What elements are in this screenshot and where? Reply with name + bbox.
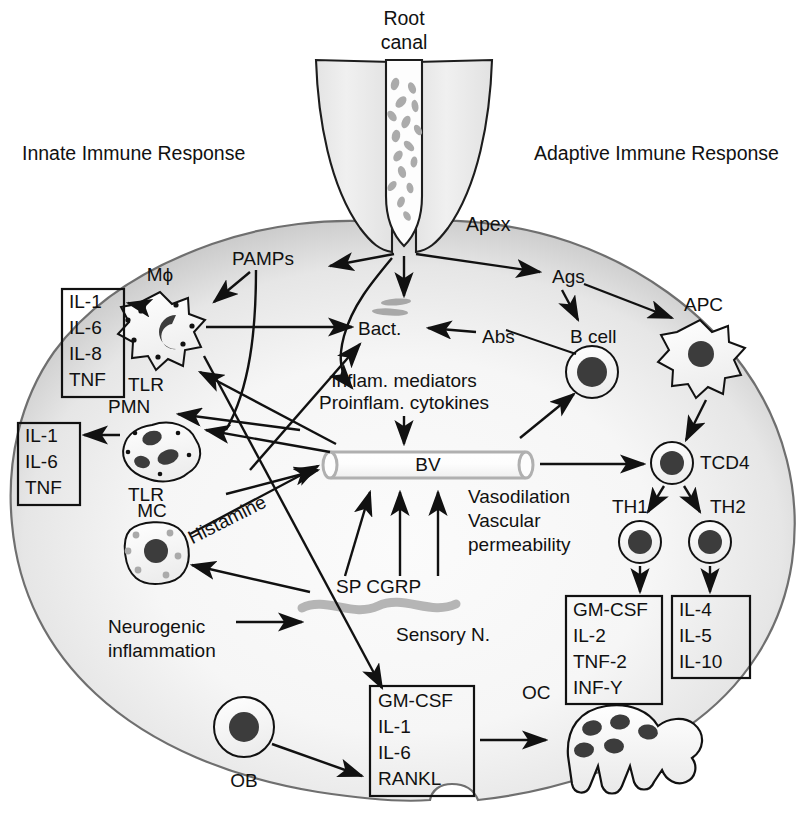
pmn-cell xyxy=(123,423,200,482)
periapical-immune-diagram: Root canal Apex Innate Immune Response A… xyxy=(0,0,809,828)
adaptive-immune-response-header: Adaptive Immune Response xyxy=(534,142,779,164)
sensory-nerve-label: Sensory N. xyxy=(396,624,490,645)
pmn-cytokine-0: IL-1 xyxy=(25,425,58,446)
antigens-label: Ags xyxy=(552,266,585,287)
pmn-cytokine-2: TNF xyxy=(25,477,62,498)
proinflam-cytokines-label: Proinflam. cytokines xyxy=(319,392,489,413)
osteo-factor-2: IL-6 xyxy=(378,742,411,763)
b-cell-label: B cell xyxy=(570,326,616,347)
antibodies-label: Abs xyxy=(482,326,515,347)
permeability-label: permeability xyxy=(468,534,571,555)
apc-nucleus xyxy=(688,341,714,367)
osteoclast-label: OC xyxy=(522,682,551,703)
osteoblast-nucleus xyxy=(229,712,259,742)
th2-label: TH2 xyxy=(710,496,746,517)
th1-cytokine-3: INF-Y xyxy=(573,677,623,698)
mast-cell-label: MC xyxy=(137,500,167,521)
mast-cell xyxy=(125,522,189,584)
osteoclast-cell xyxy=(568,705,702,793)
blood-vessel: BV xyxy=(323,452,533,478)
tlr-macrophage-label: TLR xyxy=(128,374,164,395)
macrophage-cytokine-3: TNF xyxy=(69,369,106,390)
th1-nucleus xyxy=(628,530,652,554)
pmn-cytokine-1: IL-6 xyxy=(25,451,58,472)
vascular-label: Vascular xyxy=(468,510,541,531)
inflam-mediators-label: Inflam. mediators xyxy=(331,370,477,391)
osteo-factor-1: IL-1 xyxy=(378,716,411,737)
macrophage-label: Mϕ xyxy=(147,264,173,285)
th2-nucleus xyxy=(698,530,722,554)
neurogenic-label-line1: Neurogenic xyxy=(108,616,205,637)
th2-cell xyxy=(689,521,731,563)
macrophage-cytokine-2: IL-8 xyxy=(69,343,102,364)
vasodilation-label: Vasodilation xyxy=(468,486,570,507)
neurogenic-label-line2: inflammation xyxy=(108,640,216,661)
figure-canvas: Root canal Apex Innate Immune Response A… xyxy=(0,0,809,828)
tcd4-cell xyxy=(651,442,693,484)
osteoblast-cell xyxy=(214,697,274,757)
tcd4-label: TCD4 xyxy=(700,452,750,473)
sp-cgrp-label: SP CGRP xyxy=(336,576,421,597)
th1-label: TH1 xyxy=(612,496,648,517)
th1-cytokine-1: IL-2 xyxy=(573,625,606,646)
bv-left-cap xyxy=(323,452,337,478)
sensory-nerve-fiber xyxy=(302,602,456,609)
th2-cytokine-0: IL-4 xyxy=(679,599,712,620)
pmn-label: PMN xyxy=(108,396,150,417)
osteo-factor-3: RANKL xyxy=(378,768,441,789)
mast-cell-nucleus xyxy=(144,539,168,563)
osteoblast-label: OB xyxy=(230,770,257,791)
tcd4-nucleus xyxy=(660,451,684,475)
th1-cytokine-0: GM-CSF xyxy=(573,599,648,620)
bacteria-label: Bact. xyxy=(358,318,401,339)
macrophage-cytokine-0: IL-1 xyxy=(69,291,102,312)
innate-immune-response-header: Innate Immune Response xyxy=(22,142,245,164)
bv-right-cap xyxy=(519,452,533,478)
apex-label: Apex xyxy=(466,213,511,235)
th1-cell xyxy=(619,521,661,563)
th2-cytokine-2: IL-10 xyxy=(679,651,722,672)
apc-label: APC xyxy=(684,294,723,315)
b-cell-nucleus xyxy=(577,357,607,387)
bv-label: BV xyxy=(415,454,441,475)
root-canal-label-line2: canal xyxy=(381,31,428,53)
pamps-label: PAMPs xyxy=(232,248,294,269)
th2-cytokine-1: IL-5 xyxy=(679,625,712,646)
macrophage-cytokine-1: IL-6 xyxy=(69,317,102,338)
root-canal-label-line1: Root xyxy=(383,7,425,29)
th1-cytokine-2: TNF-2 xyxy=(573,651,627,672)
osteo-factor-0: GM-CSF xyxy=(378,690,453,711)
